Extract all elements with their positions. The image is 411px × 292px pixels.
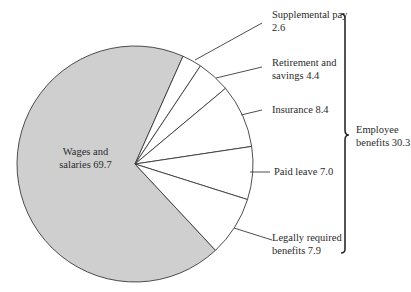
label-line: 2.6 [272, 21, 348, 34]
employee-benefits-bracket [341, 14, 349, 253]
label-line: salaries 69.7 [48, 158, 123, 171]
leader-insurance [241, 110, 262, 115]
label-line: Wages and [48, 145, 123, 158]
label-line: Employee [356, 123, 410, 136]
label-supplemental-pay: Supplemental pay 2.6 [272, 8, 348, 34]
label-line: benefits 30.3 [356, 136, 410, 149]
label-line: Supplemental pay [272, 8, 348, 21]
leader-supplemental [195, 23, 262, 60]
label-line: benefits 7.9 [272, 244, 342, 257]
label-line: Paid leave 7.0 [274, 165, 333, 178]
label-employee-benefits: Employee benefits 30.3 [356, 123, 410, 149]
leader-legally [234, 228, 272, 240]
label-insurance: Insurance 8.4 [272, 103, 329, 116]
label-paid-leave: Paid leave 7.0 [274, 165, 333, 178]
label-line: savings 4.4 [272, 69, 336, 82]
label-legally-required-benefits: Legally required benefits 7.9 [272, 231, 342, 257]
label-retirement-and-savings: Retirement and savings 4.4 [272, 56, 336, 82]
leader-retirement [216, 67, 262, 78]
label-line: Retirement and [272, 56, 336, 69]
label-line: Legally required [272, 231, 342, 244]
label-line: Insurance 8.4 [272, 103, 329, 116]
label-wages-and-salaries: Wages and salaries 69.7 [48, 145, 123, 171]
